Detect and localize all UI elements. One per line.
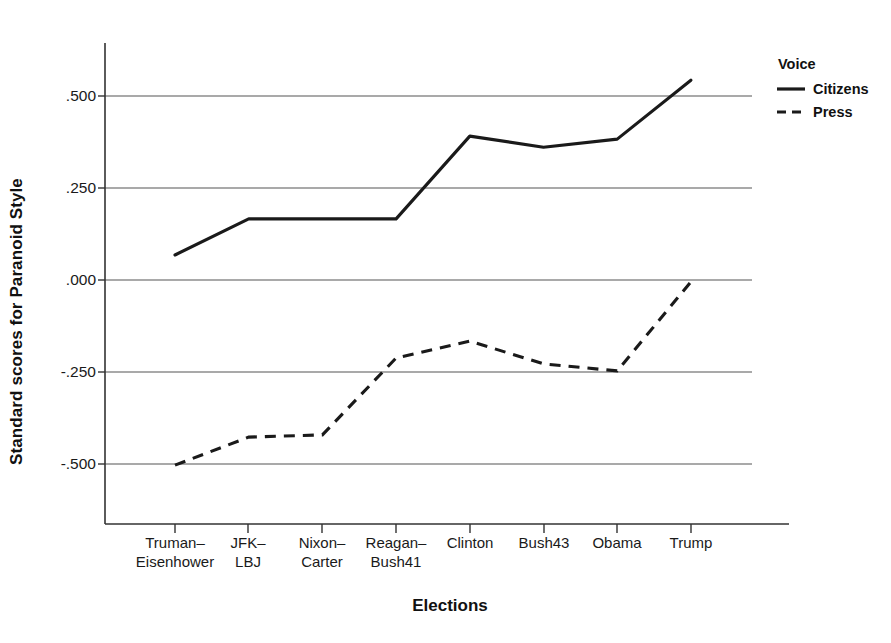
legend-entry-press[interactable]: Press — [776, 104, 886, 120]
x-tick-label-trump: Trump — [636, 533, 746, 552]
legend-swatch-dashed-icon — [776, 106, 806, 118]
x-tick-line1: Trump — [636, 533, 746, 552]
legend-entry-citizens[interactable]: Citizens — [776, 81, 886, 97]
series-line-press — [175, 282, 691, 465]
legend-label-citizens: Citizens — [813, 81, 869, 97]
legend: Voice Citizens Press — [776, 56, 886, 127]
legend-title: Voice — [776, 56, 886, 72]
legend-swatch-solid-icon — [776, 83, 806, 95]
x-axis-ticks — [175, 524, 691, 533]
chart-figure: Standard scores for Paranoid Style .500 … — [0, 0, 891, 643]
axis-spines — [105, 43, 789, 524]
x-axis-title: Elections — [105, 596, 795, 616]
y-axis-ticks — [98, 96, 105, 464]
gridlines — [105, 96, 752, 464]
series-line-citizens — [175, 80, 691, 255]
legend-label-press: Press — [813, 104, 853, 120]
x-tick-line2: Bush41 — [341, 552, 451, 571]
